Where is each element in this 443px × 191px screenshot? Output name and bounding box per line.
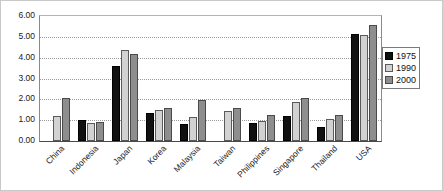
- legend: 197519902000: [382, 47, 420, 89]
- bar[interactable]: [351, 34, 359, 141]
- bar[interactable]: [326, 119, 334, 142]
- x-tick-label: Thailand: [310, 144, 339, 173]
- y-tick-label: 5.00: [1, 32, 35, 41]
- bar[interactable]: [249, 123, 257, 141]
- legend-label: 1975: [396, 52, 416, 61]
- bar[interactable]: [283, 116, 291, 141]
- y-tick-label: 3.00: [1, 73, 35, 82]
- legend-label: 2000: [396, 76, 416, 85]
- bar[interactable]: [267, 115, 275, 141]
- y-tick-label: 0.00: [1, 136, 35, 145]
- legend-swatch-icon: [385, 64, 393, 72]
- x-tick-label: Taiwan: [212, 144, 237, 169]
- x-tick-label: Malaysia: [173, 144, 203, 174]
- bar[interactable]: [301, 98, 309, 141]
- bar[interactable]: [292, 102, 300, 141]
- bar-group: [176, 16, 210, 141]
- y-axis: 6.005.004.003.002.001.000.00: [1, 1, 35, 191]
- bar[interactable]: [180, 124, 188, 141]
- bar[interactable]: [62, 98, 70, 141]
- plot-area: [39, 15, 382, 142]
- bar-group: [279, 16, 313, 141]
- bar[interactable]: [198, 100, 206, 141]
- x-tick-label: Singapore: [271, 144, 304, 177]
- legend-item[interactable]: 1990: [385, 62, 416, 74]
- bar-group: [245, 16, 279, 141]
- y-tick-label: 4.00: [1, 52, 35, 61]
- x-tick-label: China: [44, 144, 66, 166]
- bar[interactable]: [360, 35, 368, 141]
- bar[interactable]: [335, 115, 343, 141]
- bar[interactable]: [53, 116, 61, 141]
- x-tick-label: Indonesia: [68, 144, 100, 176]
- bar[interactable]: [317, 127, 325, 141]
- bar[interactable]: [78, 120, 86, 141]
- legend-item[interactable]: 1975: [385, 50, 416, 62]
- x-tick-label: Japan: [112, 144, 134, 166]
- bar-group: [347, 16, 381, 141]
- bar[interactable]: [224, 111, 232, 141]
- bar[interactable]: [155, 110, 163, 141]
- bar[interactable]: [164, 108, 172, 141]
- bars-layer: [40, 16, 381, 141]
- legend-label: 1990: [396, 64, 416, 73]
- bar-group: [40, 16, 74, 141]
- y-tick-label: 6.00: [1, 11, 35, 20]
- bar[interactable]: [87, 123, 95, 141]
- bar-group: [108, 16, 142, 141]
- x-tick-label: USA: [355, 144, 373, 162]
- bar[interactable]: [146, 113, 154, 141]
- bar-group: [142, 16, 176, 141]
- bar[interactable]: [130, 54, 138, 142]
- legend-item[interactable]: 2000: [385, 74, 416, 86]
- legend-swatch-icon: [385, 76, 393, 84]
- x-tick-label: Philippines: [236, 144, 271, 179]
- chart-figure: 6.005.004.003.002.001.000.00 ChinaIndone…: [0, 0, 443, 191]
- y-tick-label: 2.00: [1, 94, 35, 103]
- bar[interactable]: [233, 108, 241, 141]
- x-tick-label: Korea: [146, 144, 168, 166]
- bar-group: [313, 16, 347, 141]
- bar[interactable]: [189, 117, 197, 141]
- y-tick-label: 1.00: [1, 115, 35, 124]
- bar-group: [74, 16, 108, 141]
- bar[interactable]: [112, 66, 120, 141]
- legend-swatch-icon: [385, 52, 393, 60]
- bar-group: [211, 16, 245, 141]
- bar[interactable]: [369, 25, 377, 141]
- bar[interactable]: [96, 122, 104, 141]
- bar[interactable]: [121, 50, 129, 141]
- x-axis: ChinaIndonesiaJapanKoreaMalaysiaTaiwanPh…: [39, 142, 380, 191]
- bar[interactable]: [258, 121, 266, 141]
